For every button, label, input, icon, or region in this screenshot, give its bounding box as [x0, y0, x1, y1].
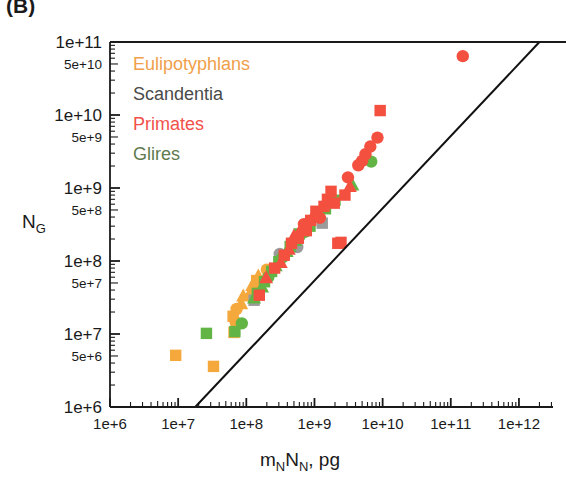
legend-item-eulipotyphlans: Eulipotyphlans: [133, 54, 250, 74]
point-square: [301, 225, 312, 236]
point-square: [374, 105, 385, 116]
y-tick-label-major: 1e+9: [64, 179, 102, 198]
point-circle: [371, 131, 383, 143]
series-primates: [254, 50, 469, 301]
x-tick-label: 1e+10: [362, 415, 404, 432]
figure-panel-b: (B) 1e+61e+71e+81e+91e+101e+115e+65e+75e…: [0, 0, 566, 480]
y-tick-label-major: 1e+7: [64, 325, 102, 344]
point-square: [170, 350, 181, 361]
point-square: [329, 197, 340, 208]
point-circle: [236, 317, 248, 329]
regression-line: [195, 42, 539, 407]
point-circle: [342, 171, 354, 183]
point-square: [208, 361, 219, 372]
legend-item-glires: Glires: [133, 144, 180, 164]
y-tick-label-major: 1e+10: [54, 106, 102, 125]
scatter-plot: 1e+61e+71e+81e+91e+101e+115e+65e+75e+85e…: [0, 0, 566, 480]
point-square: [254, 290, 265, 301]
legend-item-primates: Primates: [133, 114, 204, 134]
x-tick-label: 1e+11: [430, 415, 471, 432]
series-eulipotyphlans: [170, 264, 273, 373]
point-square: [335, 237, 346, 248]
x-tick-label: 1e+12: [498, 415, 540, 432]
y-tick-label-minor: 5e+8: [72, 203, 102, 218]
x-tick-label: 1e+7: [161, 415, 195, 432]
y-tick-label-minor: 5e+10: [64, 57, 102, 72]
fit-line: [195, 42, 539, 407]
legend-item-scandentia: Scandentia: [133, 84, 224, 104]
point-circle: [457, 50, 469, 62]
x-tick-label: 1e+6: [93, 415, 127, 432]
x-tick-label: 1e+9: [298, 415, 332, 432]
y-tick-label-major: 1e+11: [56, 33, 102, 52]
y-tick-label-minor: 5e+7: [72, 276, 102, 291]
y-axis-title: NG: [22, 211, 46, 236]
legend: EulipotyphlansScandentiaPrimatesGlires: [133, 54, 250, 164]
point-square: [325, 186, 336, 197]
y-tick-label-minor: 5e+9: [72, 130, 102, 145]
y-tick-label-major: 1e+8: [64, 252, 102, 271]
x-axis-title: mNNN, pg: [260, 449, 340, 474]
y-tick-label-minor: 5e+6: [72, 349, 102, 364]
x-tick-label: 1e+8: [229, 415, 263, 432]
point-square: [201, 328, 212, 339]
point-circle: [314, 212, 326, 224]
